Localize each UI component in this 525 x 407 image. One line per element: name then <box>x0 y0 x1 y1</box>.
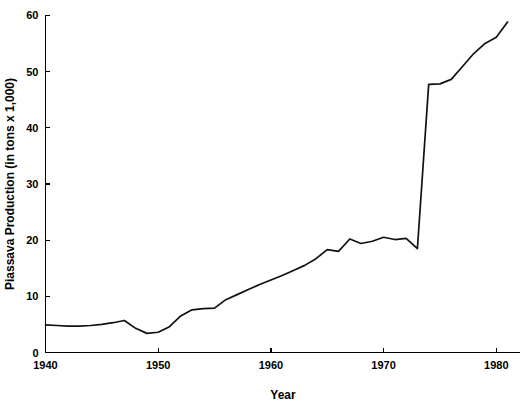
y-tick-label: 60 <box>26 9 38 21</box>
x-tick-label: 1970 <box>371 359 395 371</box>
chart-figure: 19401950196019701980 0102030405060 Year … <box>0 0 525 407</box>
x-tick-label: 1950 <box>146 359 170 371</box>
axis-lines <box>46 15 521 352</box>
axes-group <box>46 15 521 352</box>
y-axis-tick-labels: 0102030405060 <box>26 9 38 358</box>
line-chart: 19401950196019701980 0102030405060 Year … <box>0 0 525 407</box>
y-tick-label: 50 <box>26 66 38 78</box>
y-tick-label: 20 <box>26 234 38 246</box>
data-line-piassava-production <box>46 22 508 333</box>
y-tick-label: 0 <box>32 347 38 359</box>
y-tick-label: 30 <box>26 178 38 190</box>
x-tick-label: 1940 <box>33 359 57 371</box>
x-tick-label: 1960 <box>259 359 283 371</box>
x-axis-title: Year <box>270 388 296 402</box>
x-axis-tick-labels: 19401950196019701980 <box>33 359 508 371</box>
data-series-group <box>46 22 508 333</box>
y-tick-label: 10 <box>26 290 38 302</box>
y-tick-label: 40 <box>26 122 38 134</box>
x-tick-label: 1980 <box>484 359 508 371</box>
y-axis-title: Piassava Production (in tons x 1,000) <box>3 78 17 290</box>
